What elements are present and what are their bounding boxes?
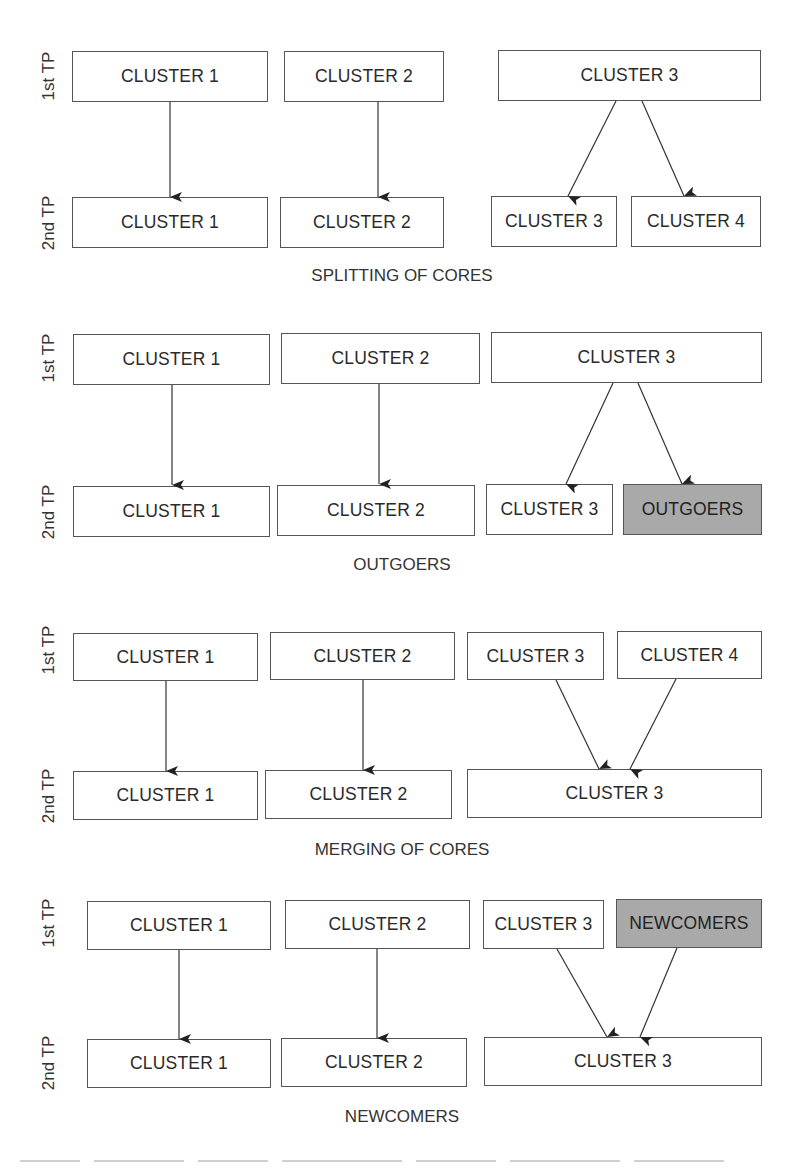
caption-merging-of-cores: MERGING OF CORES [0,840,804,860]
arrow-p1-c3-to-c3 [568,101,616,196]
row-label-1st-tp: 1st TP [39,328,59,388]
arrow-p2-c3-to-c3 [566,383,613,484]
p3-t2-cluster-1: CLUSTER 1 [73,771,258,820]
p3-t1-cluster-4: CLUSTER 4 [617,631,762,679]
caption-outgoers: OUTGOERS [0,555,804,575]
p3-t2-cluster-2: CLUSTER 2 [265,770,452,819]
p4-t1-cluster-1: CLUSTER 1 [87,901,271,950]
cropped-caption-text [20,1160,790,1168]
arrow-p4-c3-to-c3 [557,949,607,1037]
row-label-2nd-tp: 2nd TP [39,766,59,826]
p2-t1-cluster-2: CLUSTER 2 [281,333,480,384]
p1-t1-cluster-3: CLUSTER 3 [498,50,761,101]
row-label-2nd-tp: 2nd TP [39,193,59,253]
transition-arrows [0,0,804,1168]
p3-t1-cluster-3: CLUSTER 3 [467,632,604,680]
row-label-2nd-tp: 2nd TP [39,482,59,542]
p4-t1-cluster-3: CLUSTER 3 [483,900,604,949]
arrow-p2-c3-to-outgoers [638,383,682,484]
p2-t2-cluster-3: CLUSTER 3 [486,484,613,535]
p2-t1-cluster-1: CLUSTER 1 [73,334,270,385]
p4-t1-newcomers: NEWCOMERS [616,899,762,948]
p1-t1-cluster-1: CLUSTER 1 [72,51,268,102]
row-label-1st-tp: 1st TP [39,893,59,953]
caption-splitting-of-cores: SPLITTING OF CORES [0,266,804,286]
p1-t2-cluster-2: CLUSTER 2 [280,197,444,248]
p3-t2-cluster-3: CLUSTER 3 [467,769,762,818]
arrow-p1-c3-to-c4 [642,101,684,196]
p1-t2-cluster-4: CLUSTER 4 [631,196,761,247]
caption-newcomers: NEWCOMERS [0,1107,804,1127]
row-label-2nd-tp: 2nd TP [39,1033,59,1093]
p4-t2-cluster-1: CLUSTER 1 [87,1039,271,1088]
arrow-p4-newcomers-to-c3 [640,948,677,1037]
arrow-p3-c3-to-c3 [556,680,599,769]
p4-t2-cluster-3: CLUSTER 3 [484,1037,762,1086]
p4-t2-cluster-2: CLUSTER 2 [281,1038,467,1087]
p2-t2-outgoers: OUTGOERS [623,484,762,535]
p2-t1-cluster-3: CLUSTER 3 [491,332,762,383]
row-label-1st-tp: 1st TP [39,46,59,106]
p1-t1-cluster-2: CLUSTER 2 [284,51,444,102]
p3-t1-cluster-1: CLUSTER 1 [73,633,258,681]
row-label-1st-tp: 1st TP [39,620,59,680]
p3-t1-cluster-2: CLUSTER 2 [270,632,455,680]
p2-t2-cluster-1: CLUSTER 1 [73,486,270,537]
p1-t2-cluster-3: CLUSTER 3 [491,196,617,247]
arrow-p3-c4-to-c3 [630,679,676,769]
p1-t2-cluster-1: CLUSTER 1 [72,197,268,248]
p2-t2-cluster-2: CLUSTER 2 [277,485,475,536]
p4-t1-cluster-2: CLUSTER 2 [285,900,470,949]
